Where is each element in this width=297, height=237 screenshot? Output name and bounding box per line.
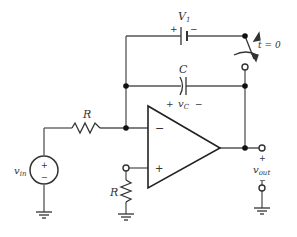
source-minus: − — [41, 173, 48, 182]
opamp-noninverting-sign: + — [155, 163, 163, 174]
ground-icon — [36, 208, 270, 220]
opamp-inverting-sign: − — [155, 122, 164, 135]
switch-time-label: t = 0 — [258, 40, 281, 50]
input-resistor-icon — [72, 123, 100, 133]
ground-resistor-label: R — [109, 186, 118, 199]
cap-plus: + — [166, 99, 174, 109]
input-resistor-label: R — [82, 108, 91, 121]
source-label: vin — [14, 165, 27, 178]
battery-minus: − — [190, 24, 198, 34]
capacitor-label: C — [179, 63, 188, 76]
cap-minus: − — [195, 99, 203, 109]
circuit-diagram: V1 + − t = 0 C + vC − R R vin + − − + + … — [0, 0, 297, 237]
ground-resistor-icon — [121, 180, 131, 202]
battery-label: V1 — [178, 10, 190, 24]
opamp-icon — [148, 106, 220, 188]
battery-plus: + — [170, 24, 178, 34]
battery-icon — [181, 27, 187, 45]
cap-voltage-label: vC — [178, 98, 190, 111]
source-plus: + — [41, 161, 48, 170]
out-minus: − — [259, 176, 266, 185]
out-plus: + — [259, 154, 266, 163]
